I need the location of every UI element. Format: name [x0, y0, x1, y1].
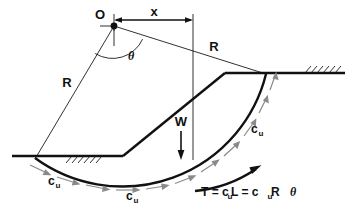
radius-right-label: R [209, 39, 219, 54]
theta-angle-label: θ [128, 49, 135, 63]
center-point-label: O [95, 7, 105, 22]
weight-arrow-group [178, 131, 185, 160]
failure-surface-arc [35, 74, 266, 187]
radius-left-label: R [62, 75, 72, 90]
cohesion-label-3: c u [251, 122, 264, 138]
shear-arrow-5-head [162, 184, 168, 189]
equation-theta: θ [290, 185, 297, 199]
weight-label: W [175, 114, 188, 129]
cohesion-label-1: c u [48, 174, 61, 190]
resisting-force-equation: T = c u L = c u R θ [201, 185, 297, 201]
cohesion-label-2-subscript: u [134, 196, 139, 205]
weight-arrowhead [178, 150, 185, 160]
theta-arc [95, 39, 142, 58]
diagram-canvas: O x R R θ W c u c u c u T = c u L = c u … [0, 0, 351, 216]
center-point-marker [111, 23, 118, 30]
theta-angle-group [95, 39, 142, 58]
equation-part-2: L = c [231, 185, 259, 199]
shear-arrow-3-head [103, 186, 109, 191]
cohesion-label-3-subscript: u [259, 129, 264, 138]
radius-left-line [35, 26, 114, 159]
equation-part-3: R [271, 185, 280, 199]
slope-stability-diagram: O x R R θ W c u c u c u T = c u L = c u … [0, 0, 351, 216]
x-dimension-left-arrowhead [114, 17, 122, 23]
x-distance-label: x [150, 4, 158, 19]
shear-arrow-7-head [212, 160, 218, 165]
x-dimension-right-arrowhead [185, 17, 193, 23]
equation-part-1: T = c [201, 185, 229, 199]
cohesion-label-1-symbol: c [48, 174, 55, 188]
radius-right-line [114, 26, 266, 74]
shear-arrow-4-head [133, 188, 139, 193]
shear-stress-arrows-group [30, 73, 278, 192]
cohesion-label-1-subscript: u [56, 181, 61, 190]
cohesion-label-2-symbol: c [126, 189, 133, 203]
cohesion-label-3-symbol: c [251, 122, 258, 136]
shear-arrow-6-head [189, 176, 195, 181]
